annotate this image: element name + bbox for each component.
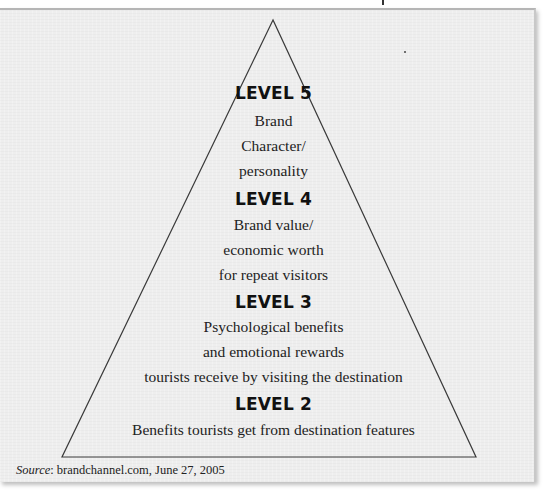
level-4-text-line: Brand value/ bbox=[0, 216, 547, 234]
source-label: Source bbox=[16, 463, 50, 477]
level-3-text-line: tourists receive by visiting the destina… bbox=[0, 368, 547, 386]
level-5-heading: LEVEL 5 bbox=[0, 83, 547, 103]
source-text: : brandchannel.com, June 27, 2005 bbox=[50, 463, 225, 477]
source-citation: Source: brandchannel.com, June 27, 2005 bbox=[16, 463, 225, 478]
level-4-text-line: for repeat visitors bbox=[0, 266, 547, 284]
level-5-text-line: Brand bbox=[0, 112, 547, 130]
level-2-heading: LEVEL 2 bbox=[0, 394, 547, 414]
level-5-text-line: personality bbox=[0, 162, 547, 180]
level-2-text-line: Benefits tourists get from destination f… bbox=[0, 421, 547, 439]
speck-mark bbox=[404, 51, 406, 53]
level-3-heading: LEVEL 3 bbox=[0, 292, 547, 312]
level-4-heading: LEVEL 4 bbox=[0, 189, 547, 209]
level-3-text-line: Psychological benefits bbox=[0, 318, 547, 336]
level-5-text-line: Character/ bbox=[0, 137, 547, 155]
level-3-text-line: and emotional rewards bbox=[0, 343, 547, 361]
level-4-text-line: economic worth bbox=[0, 241, 547, 259]
